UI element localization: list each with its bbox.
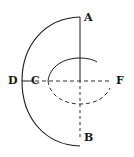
label-f: F — [116, 75, 124, 86]
label-a: A — [84, 12, 93, 23]
inner-ellipse-solid — [48, 58, 97, 81]
label-c: C — [31, 75, 40, 86]
inner-ellipse-dashed — [48, 81, 110, 104]
label-d: D — [8, 75, 18, 86]
label-b: B — [84, 132, 93, 143]
geometry-diagram — [0, 0, 134, 157]
